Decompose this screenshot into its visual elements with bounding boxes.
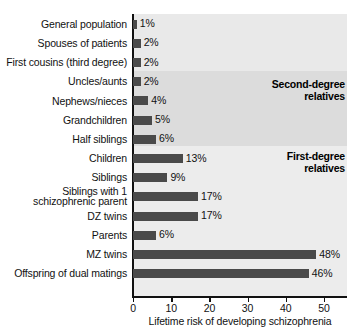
bar-value-label: 6% — [159, 134, 174, 143]
bar-category-label: Siblings — [0, 172, 131, 183]
x-axis-tick-label: 30 — [242, 302, 253, 314]
x-axis-tick-label: 50 — [318, 302, 329, 314]
bar — [133, 192, 198, 201]
chart-row: General population — [0, 14, 353, 33]
bar — [133, 250, 316, 259]
bar — [133, 231, 156, 240]
bar — [133, 154, 183, 163]
annotation-second-degree-relatives: Second-degree relatives — [235, 79, 345, 102]
bar — [133, 212, 198, 221]
annotation-first-degree-relatives: First-degree relatives — [235, 151, 345, 174]
bar — [133, 39, 141, 48]
bar-category-label: Uncles/aunts — [0, 76, 131, 87]
bar-category-label: Siblings with 1schizophrenic parent — [0, 186, 131, 207]
chart-row: Half siblings — [0, 129, 353, 148]
bar-value-label: 1% — [140, 19, 155, 28]
bar-value-label: 4% — [151, 96, 166, 105]
bar-value-label: 17% — [201, 192, 222, 201]
x-axis-tick-label: 10 — [165, 302, 176, 314]
bar-value-label: 9% — [170, 173, 185, 182]
x-axis-line — [132, 296, 347, 298]
bar-category-label: Half siblings — [0, 134, 131, 145]
bar-category-label: Offspring of dual matings — [0, 268, 131, 279]
x-axis-title: Lifetime risk of developing schizophreni… — [133, 315, 347, 327]
annotation-second-degree-line2: relatives — [304, 90, 345, 102]
bar-category-label: Parents — [0, 230, 131, 241]
bar-value-label: 48% — [319, 250, 340, 259]
bar — [133, 20, 137, 29]
bar — [133, 96, 148, 105]
schizophrenia-risk-bar-chart: General populationSpouses of patientsFir… — [0, 0, 353, 331]
bar-category-label: Grandchildren — [0, 115, 131, 126]
bar-category-label: DZ twins — [0, 211, 131, 222]
bar-value-label: 17% — [201, 211, 222, 220]
annotation-second-degree-line1: Second-degree — [272, 78, 345, 90]
x-axis-tick-label: 40 — [280, 302, 291, 314]
bar-value-label: 2% — [144, 58, 159, 67]
x-axis-tick-label: 20 — [204, 302, 215, 314]
bar-category-label: Children — [0, 153, 131, 164]
bar-value-label: 13% — [186, 154, 207, 163]
chart-row: Parents — [0, 225, 353, 244]
bar-category-label: Nephews/nieces — [0, 96, 131, 107]
chart-row: Grandchildren — [0, 110, 353, 129]
bar — [133, 269, 309, 278]
bar — [133, 58, 141, 67]
bar-value-label: 46% — [312, 269, 333, 278]
bar-category-label: Spouses of patients — [0, 38, 131, 49]
annotation-first-degree-line2: relatives — [304, 162, 345, 174]
bar-value-label: 6% — [159, 230, 174, 239]
bar — [133, 173, 167, 182]
bar-value-label: 5% — [155, 115, 170, 124]
bar-value-label: 2% — [144, 77, 159, 86]
bar-value-label: 2% — [144, 38, 159, 47]
bar-category-label: MZ twins — [0, 249, 131, 260]
bar — [133, 77, 141, 86]
annotation-first-degree-line1: First-degree — [287, 150, 345, 162]
chart-row: Spouses of patients — [0, 33, 353, 52]
bar — [133, 135, 156, 144]
chart-row: First cousins (third degree) — [0, 52, 353, 71]
bar-category-label: General population — [0, 19, 131, 30]
bar — [133, 116, 152, 125]
bar-category-label: First cousins (third degree) — [0, 57, 131, 68]
x-axis-tick-label: 0 — [130, 302, 136, 314]
